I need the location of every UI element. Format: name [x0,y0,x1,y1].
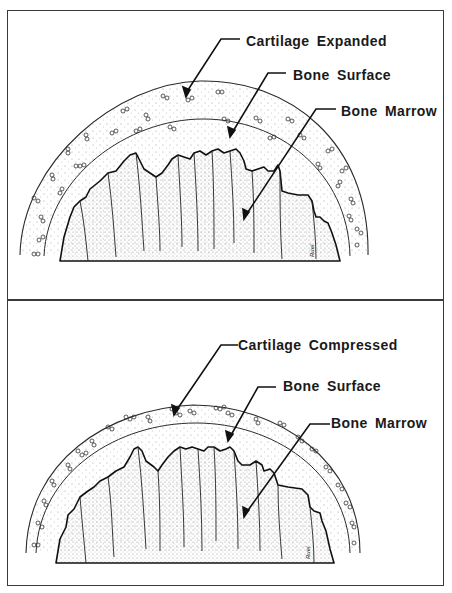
artist-signature: Ruel [309,244,315,257]
joint-illustration-expanded: Ruel [8,11,444,299]
label-cartilage-compressed: Cartilage Compressed [238,337,398,353]
label-bone-marrow-top: Bone Marrow [341,103,437,119]
panel-cartilage-expanded: Ruel Cartilage Expanded Bone Surface Bon… [8,11,444,299]
label-bone-marrow-bottom: Bone Marrow [331,415,427,431]
label-cartilage-expanded: Cartilage Expanded [246,33,387,49]
panel-cartilage-compressed: Ruel Cartilage Compressed Bone Surface B… [8,301,444,586]
label-bone-surface-top: Bone Surface [293,67,391,83]
artist-signature-compressed: Ruel [305,546,311,559]
label-bone-surface-bottom: Bone Surface [283,378,381,394]
